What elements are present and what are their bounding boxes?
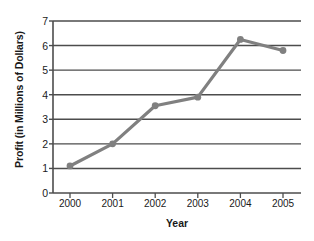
gridlines bbox=[53, 21, 301, 168]
data-point-marker bbox=[152, 102, 159, 109]
data-point-marker bbox=[280, 47, 287, 54]
data-point-marker bbox=[194, 94, 201, 101]
plot-area bbox=[0, 0, 314, 241]
data-point-marker bbox=[237, 36, 244, 43]
data-point-marker bbox=[109, 140, 116, 147]
data-point-marker bbox=[67, 163, 74, 170]
line-chart: Profit (in Millions of Dollars) 01234567… bbox=[0, 0, 314, 241]
data-line bbox=[70, 39, 283, 166]
data-series-line bbox=[70, 39, 283, 166]
